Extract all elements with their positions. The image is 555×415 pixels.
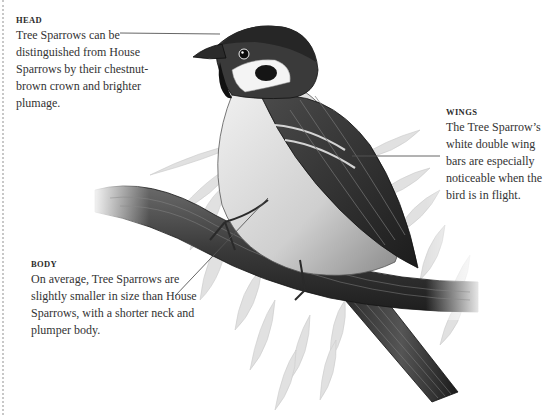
cheek-spot: [255, 65, 277, 81]
callout-wings: WINGS The Tree Sparrow’s white double wi…: [446, 107, 555, 204]
callout-wings-title: WINGS: [446, 107, 555, 117]
callout-head-title: HEAD: [16, 15, 176, 25]
callout-head-text: Tree Sparrows can be distinguished from …: [16, 27, 176, 112]
eye: [239, 49, 249, 59]
callout-head: HEAD Tree Sparrows can be distinguished …: [16, 15, 176, 112]
callout-body-text: On average, Tree Sparrows are slightly s…: [31, 271, 201, 339]
callout-body-title: BODY: [31, 259, 201, 269]
callout-wings-text: The Tree Sparrow’s white double wing bar…: [446, 119, 555, 204]
beak: [193, 44, 226, 59]
callout-body: BODY On average, Tree Sparrows are sligh…: [31, 259, 201, 339]
